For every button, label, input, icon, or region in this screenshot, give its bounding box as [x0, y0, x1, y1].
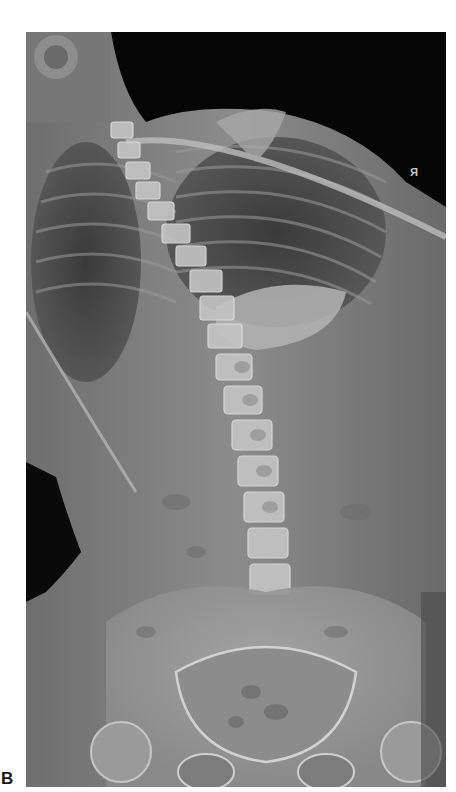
panel-label: B: [1, 770, 13, 788]
xray-image: [26, 32, 446, 787]
radiograph-graphic: [26, 32, 446, 787]
laterality-marker: R: [410, 166, 418, 178]
